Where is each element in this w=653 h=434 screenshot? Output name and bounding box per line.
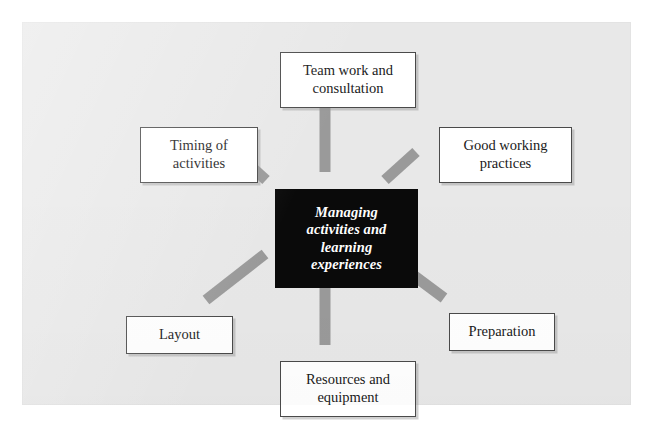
diagram-root: Team work and consultation Timing of act… xyxy=(0,0,653,434)
node-label: Timing of activities xyxy=(146,137,252,172)
node-label: Good working practices xyxy=(445,137,566,172)
center-line-3: learning xyxy=(321,239,373,255)
node-timing-of-activities[interactable]: Timing of activities xyxy=(140,127,258,183)
node-label: Team work and consultation xyxy=(286,62,410,97)
connector-top-right xyxy=(385,152,416,180)
node-layout[interactable]: Layout xyxy=(126,316,233,354)
node-resources-and-equipment[interactable]: Resources and equipment xyxy=(280,361,416,417)
node-label: Resources and equipment xyxy=(286,371,410,406)
center-hub-box[interactable]: Managing activities and learning experie… xyxy=(275,189,418,288)
node-label: Layout xyxy=(159,326,200,344)
connector-bottom-left xyxy=(206,254,265,300)
center-hub-label: Managing activities and learning experie… xyxy=(307,204,387,272)
node-preparation[interactable]: Preparation xyxy=(449,313,555,351)
node-good-working-practices[interactable]: Good working practices xyxy=(439,127,572,183)
node-team-work-and-consultation[interactable]: Team work and consultation xyxy=(280,52,416,108)
center-line-4: experiences xyxy=(311,256,382,272)
node-label: Preparation xyxy=(469,323,536,341)
center-line-1: Managing xyxy=(315,204,378,220)
center-line-2: activities and xyxy=(307,221,387,237)
diagram-panel: Team work and consultation Timing of act… xyxy=(22,22,631,405)
